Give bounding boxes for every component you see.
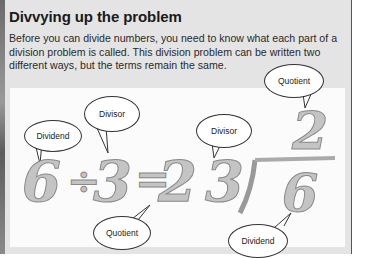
ld-dividend-digit: 6 (282, 162, 318, 223)
label-dividend-right: Dividend (228, 224, 288, 258)
quotient-digit: 2 (158, 148, 197, 214)
label-quotient-left: Quotient (93, 216, 151, 250)
ld-quotient-digit: 2 (292, 100, 328, 161)
label-divisor-right: Divisor (196, 114, 252, 148)
label-divisor-left: Divisor (84, 96, 140, 132)
divisor-digit: 3 (93, 148, 132, 214)
ld-divisor-digit: 3 (205, 148, 244, 214)
label-dividend-left: Dividend (24, 120, 82, 152)
dividend-digit: 6 (22, 148, 61, 214)
label-quotient-right: Quotient (264, 64, 324, 98)
